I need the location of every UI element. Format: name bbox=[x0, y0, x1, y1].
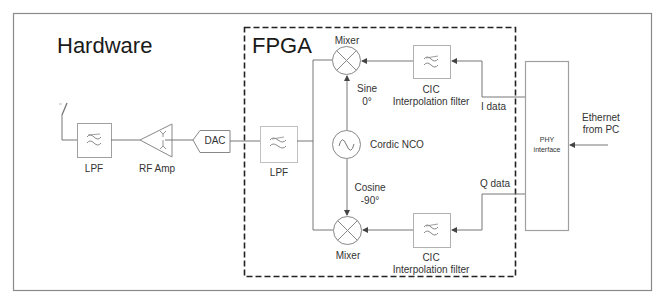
mixer-top-icon bbox=[333, 47, 361, 75]
rf-amp-label: RF Amp bbox=[139, 163, 175, 175]
cic-top-label: CIC bbox=[422, 84, 439, 96]
q-data-label: Q data bbox=[480, 178, 510, 190]
mixer-bottom-icon bbox=[334, 217, 362, 245]
ethernet-label: Ethernet bbox=[582, 112, 620, 124]
cic-bottom-block bbox=[414, 214, 451, 248]
nco-label: Cordic NCO bbox=[370, 139, 424, 151]
i-data-label: I data bbox=[481, 101, 506, 113]
cosine-label: Cosine bbox=[354, 182, 385, 194]
phy-label: PHY bbox=[540, 135, 554, 144]
sine-label: Sine bbox=[357, 83, 377, 95]
hw-lpf-block bbox=[78, 124, 112, 158]
cosine-phase-label: -90° bbox=[361, 195, 379, 207]
cic-bottom-sublabel: Interpolation filter bbox=[393, 264, 470, 276]
phy-sublabel: interface bbox=[534, 145, 561, 154]
sine-phase-label: 0° bbox=[362, 96, 372, 108]
hw-lpf-label: LPF bbox=[85, 163, 103, 175]
hardware-section-label: Hardware bbox=[57, 33, 152, 59]
fpga-section-label: FPGA bbox=[252, 33, 312, 59]
dac-label: DAC bbox=[204, 135, 225, 147]
mixer-bottom-label: Mixer bbox=[336, 250, 360, 262]
cic-bottom-label: CIC bbox=[422, 252, 439, 264]
ethernet-sublabel: from PC bbox=[583, 124, 620, 136]
fpga-lpf-label: LPF bbox=[270, 167, 288, 179]
transmitter-block-diagram: Hardware FPGA LPF RF Amp DAC LPF Mixer M… bbox=[0, 0, 664, 300]
cic-top-sublabel: Interpolation filter bbox=[393, 96, 470, 108]
cic-top-block bbox=[414, 46, 451, 79]
fpga-lpf-block bbox=[261, 127, 298, 163]
mixer-top-label: Mixer bbox=[335, 35, 359, 47]
antenna-icon bbox=[59, 103, 77, 140]
nco-block bbox=[333, 131, 361, 159]
